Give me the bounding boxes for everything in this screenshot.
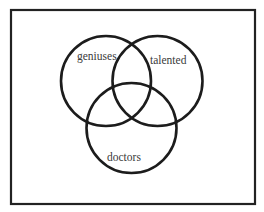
set-label-talented: talented xyxy=(150,54,187,66)
venn-diagram: geniuses talented doctors xyxy=(0,0,264,212)
set-label-geniuses: geniuses xyxy=(77,50,117,63)
set-circle-talented xyxy=(113,36,203,126)
diagram-frame xyxy=(11,10,255,204)
set-label-doctors: doctors xyxy=(107,151,141,163)
